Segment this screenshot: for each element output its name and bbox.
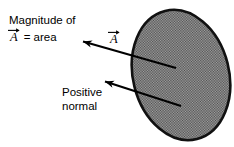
vector-a-letter: A bbox=[110, 32, 118, 46]
vector-a-symbol: A bbox=[109, 33, 119, 46]
positive-normal-label: Positive normal bbox=[62, 86, 102, 113]
vector-a-symbol-magnitude: A bbox=[9, 31, 19, 44]
positive-normal-line1: Positive bbox=[62, 86, 102, 100]
shaded-ellipse-surface bbox=[118, 0, 234, 147]
magnitude-equals-area-label: A = area bbox=[9, 31, 57, 44]
vector-a-callout-label: A bbox=[109, 33, 119, 46]
vector-a-letter: A bbox=[10, 30, 18, 44]
equals-area-text: = area bbox=[24, 31, 57, 44]
magnitude-label-line1: Magnitude of bbox=[9, 14, 76, 27]
positive-normal-line2: normal bbox=[62, 100, 102, 114]
vector-area-diagram: Magnitude of A = area A Positive bbox=[0, 0, 234, 147]
